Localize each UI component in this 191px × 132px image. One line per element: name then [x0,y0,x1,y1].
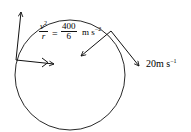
speed-unit-power: −1 [170,58,176,64]
formula-unit-power: −2 [95,26,101,32]
velocity-arrow-right [111,31,139,66]
formula-power: 2 [44,20,47,26]
speed-value: 20 [146,58,156,69]
formula-unit-text: m s [82,27,95,37]
speed-unit: m s [156,58,170,69]
velocity-arrow-left [16,12,21,60]
formula-equals: = [52,28,58,39]
formula-unit: m s−2 [82,27,101,37]
formula-rhs-fraction: 400 6 [61,22,77,41]
acceleration-arrow-left [16,60,54,64]
formula-rhs-denominator: 6 [67,32,72,41]
formula-lhs-fraction: v2 r [39,22,48,41]
speed-label: 20m s−1 [146,58,177,69]
formula-r: r [42,31,46,41]
